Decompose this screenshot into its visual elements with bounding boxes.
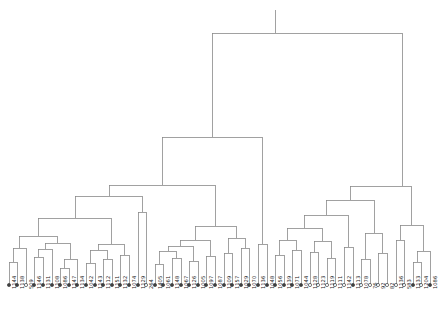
leaf-label: 1128 [312,276,318,289]
leaf-label: 1157 [234,276,240,289]
leaf-label: 1123 [320,276,326,289]
leaf-label: 1087 [217,276,223,289]
leaf-label: 1042 [88,276,94,289]
leaf-label: 1108 [54,276,60,289]
leaf-label: 1097 [208,276,214,289]
leaf-label: 1113 [355,276,361,289]
leaf-label: 1119 [329,276,335,289]
leaf-label: 1131 [45,276,51,289]
leaf-label: 1136 [398,276,404,289]
leaf-label: 1405 [157,276,163,289]
leaf-label: 1136 [260,276,266,289]
leaf-label: 82 [389,282,395,289]
leaf-label: 1132 [122,276,128,289]
leaf-label: 76 [372,282,378,289]
leaf-label: 1126 [191,276,197,289]
leaf-label-layer: 1144113850911461131110810861147113410421… [0,0,442,318]
leaf-label: 1138 [19,276,25,289]
leaf-label: 1204 [423,276,429,289]
leaf-label: 1142 [346,276,352,289]
leaf-label: 1056 [277,276,283,289]
leaf-label: 92 [380,282,386,289]
leaf-label: 1111 [337,276,343,289]
dendrogram-plot: 1144113850911461131110810861147113410421… [0,0,442,318]
leaf-label: 1074 [131,276,137,289]
leaf-label: 1048 [269,276,275,289]
leaf-label: 1112 [105,276,111,289]
leaf-label: 1133 [415,276,421,289]
leaf-label: 1143 [97,276,103,289]
leaf-label: 1146 [36,276,42,289]
leaf-label: 1139 [286,276,292,289]
leaf-label: 583 [406,279,412,289]
leaf-label: 1070 [251,276,257,289]
leaf-label: 1144 [11,276,17,289]
leaf-label: 1134 [79,276,85,289]
leaf-label: 1129 [140,276,146,289]
leaf-label: 1109 [226,276,232,289]
leaf-label: 1086 [62,276,68,289]
leaf-label: 1067 [183,276,189,289]
leaf-label: 264 [148,279,154,289]
leaf-label: 1071 [294,276,300,289]
leaf-label: 1078 [363,276,369,289]
leaf-label: 1148 [174,276,180,289]
leaf-label: 1147 [71,276,77,289]
leaf-label: 1029 [243,276,249,289]
leaf-label: 1151 [114,276,120,289]
leaf-label: 1044 [303,276,309,289]
leaf-label: 1005 [200,276,206,289]
leaf-label: 509 [28,279,34,289]
leaf-label: 1086 [432,276,438,289]
leaf-label: 1061 [165,276,171,289]
